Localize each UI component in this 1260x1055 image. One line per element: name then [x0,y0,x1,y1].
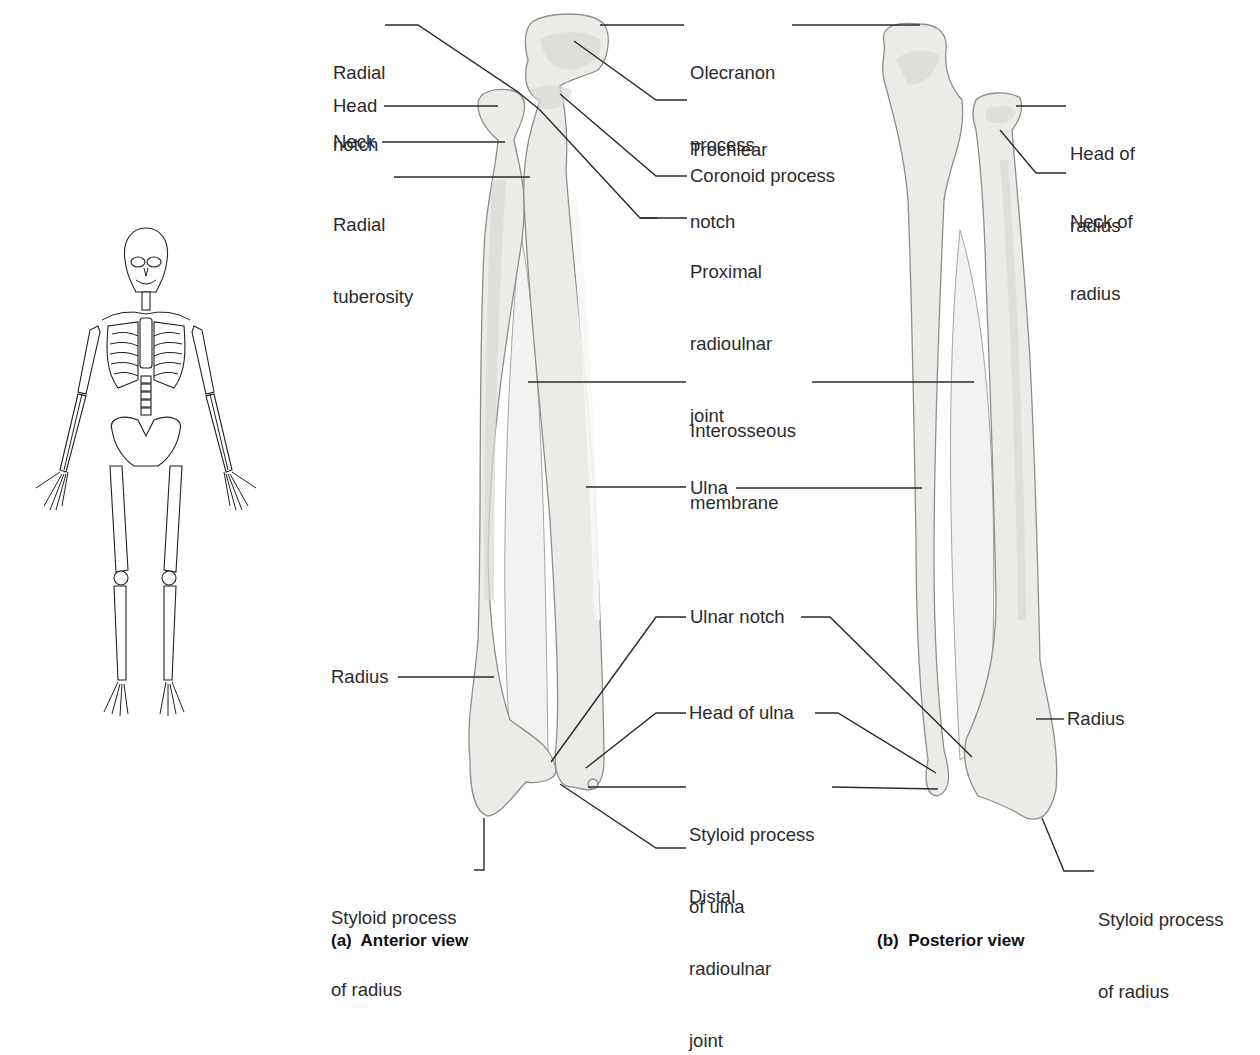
anterior-forearm [469,14,608,816]
caption-posterior-view: (b) Posterior view [877,931,1024,951]
leader-styloid-radius-anterior [474,818,484,870]
leader-distal-ru-joint [560,784,686,848]
leader-ulnar-notch-right [801,617,972,757]
label-radial-tuberosity: Radial tuberosity [333,165,413,333]
label-radius-anterior: Radius [331,665,389,689]
posterior-forearm [883,23,1057,819]
leader-coronoid [560,94,687,176]
label-ulna: Ulna [690,476,728,500]
label-interosseous-membrane: Interosseous membrane [690,371,796,539]
label-styloid-process-of-radius-posterior: Styloid process of radius [1098,860,1223,1028]
label-radius-posterior: Radius [1067,707,1125,731]
label-ulnar-notch: Ulnar notch [690,605,785,629]
label-head-of-ulna: Head of ulna [689,701,794,725]
orientation-skeleton [36,228,256,716]
label-head: Head [333,94,377,118]
leader-styloid-radius-posterior [1042,818,1094,871]
label-neck: Neck [333,130,375,154]
leader-head-ulna-right [815,713,936,773]
label-coronoid-process: Coronoid process [690,164,835,188]
label-distal-radioulnar-joint: Distal radioulnar joint [689,837,771,1055]
label-neck-of-radius: Neck of radius [1070,162,1133,330]
leader-styloid-ulna-right [832,787,938,789]
caption-anterior-view: (a) Anterior view [331,931,468,951]
